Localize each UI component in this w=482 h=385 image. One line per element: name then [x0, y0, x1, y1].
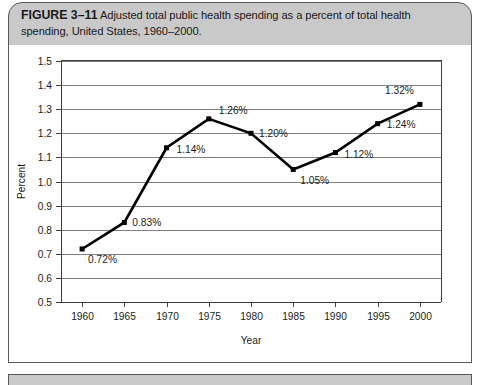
figure-number: FIGURE 3–11: [21, 8, 98, 22]
data-point-label: 1.05%: [300, 175, 329, 186]
x-axis-tick-label: 1995: [367, 311, 390, 322]
data-point-marker: [206, 116, 211, 121]
data-point-marker: [249, 131, 254, 136]
y-axis-tick-label: 1.0: [38, 177, 52, 188]
figure-caption: FIGURE 3–11 Adjusted total public health…: [21, 8, 457, 39]
figure-source-strip: [8, 374, 472, 385]
data-point-marker: [291, 167, 296, 172]
x-axis-tick-label: 1990: [324, 311, 347, 322]
y-axis-tick-label: 1.4: [38, 80, 52, 91]
y-axis-tick-label: 1.2: [38, 128, 52, 139]
x-axis-tick-label: 1975: [198, 311, 221, 322]
data-point-label: 1.14%: [177, 144, 206, 155]
data-point-marker: [122, 220, 127, 225]
data-point-label: 0.72%: [88, 254, 117, 265]
figure-container: FIGURE 3–11 Adjusted total public health…: [8, 2, 472, 374]
y-axis-tick-label: 1.1: [38, 152, 52, 163]
data-point-label: 1.12%: [344, 149, 373, 160]
data-point-marker: [164, 145, 169, 150]
line-chart: 0.50.60.70.80.91.01.11.21.31.41.51960196…: [9, 45, 471, 361]
data-point-label: 1.26%: [219, 105, 248, 116]
data-point-marker: [417, 102, 422, 107]
chart-panel: 0.50.60.70.80.91.01.11.21.31.41.51960196…: [8, 45, 472, 363]
figure-header-band: FIGURE 3–11 Adjusted total public health…: [8, 2, 472, 46]
y-axis-tick-label: 0.5: [38, 297, 52, 308]
x-axis-tick-label: 1960: [71, 311, 94, 322]
y-axis-tick-label: 1.3: [38, 104, 52, 115]
y-axis-tick-label: 0.9: [38, 201, 52, 212]
y-axis-tick-label: 0.8: [38, 225, 52, 236]
x-axis-tick-label: 2000: [409, 311, 432, 322]
x-axis-tick-label: 1965: [113, 311, 136, 322]
data-point-label: 1.32%: [385, 85, 414, 96]
data-point-label: 1.20%: [259, 128, 288, 139]
y-axis-title: Percent: [16, 164, 27, 199]
data-point-marker: [333, 150, 338, 155]
x-axis-tick-label: 1970: [156, 311, 179, 322]
y-axis-tick-label: 0.7: [38, 249, 52, 260]
x-axis-tick-label: 1980: [240, 311, 263, 322]
x-axis-tick-label: 1985: [282, 311, 305, 322]
data-point-label: 0.83%: [132, 217, 161, 228]
y-axis-tick-label: 0.6: [38, 273, 52, 284]
data-point-marker: [80, 246, 85, 251]
x-axis-title: Year: [241, 335, 262, 346]
data-point-label: 1.24%: [387, 119, 416, 130]
y-axis-tick-label: 1.5: [38, 56, 52, 67]
data-point-marker: [375, 121, 380, 126]
